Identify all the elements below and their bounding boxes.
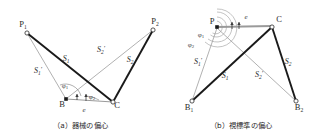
label-eccentricity-e: e (82, 106, 85, 114)
figure-container: P1 P2 B C S1 S1′ S2′ S2 φ1 φ2 e P C B1 B… (0, 0, 321, 138)
label-point-b1: B1 (185, 102, 194, 113)
line-c-p2-heavy (113, 30, 153, 102)
vertex-p-station (215, 25, 219, 29)
vertex-p1 (25, 31, 29, 35)
label-point-p1: P1 (19, 19, 27, 30)
line-p2-b (66, 30, 153, 99)
line-p-c-eccentric (217, 26, 272, 27)
label-distance-s1-prime-b: S1′ (194, 56, 203, 66)
label-angle-phi1-b: φ1 (198, 31, 205, 39)
label-angle-phi2-b: φ2 (188, 41, 195, 49)
label-distance-s1-b: S1 (222, 71, 229, 81)
vertex-c-b (270, 25, 274, 29)
panel-b-labels: P C B1 B2 S1′ S1 S2′ S2 φ1 φ2 e (185, 13, 304, 113)
label-point-p: P (210, 16, 215, 26)
figure-svg: P1 P2 B C S1 S1′ S2′ S2 φ1 φ2 e P C B1 B… (0, 0, 321, 138)
caption-panel-b: （b）視標準の偏心 (161, 120, 321, 130)
vertex-p2 (151, 28, 155, 32)
label-distance-s2-prime: S2′ (97, 44, 106, 54)
vertex-b1 (190, 99, 194, 103)
label-distance-s1-prime: S1′ (34, 65, 43, 75)
panel-a-labels: P1 P2 B C S1 S1′ S2′ S2 φ1 φ2 e (19, 16, 159, 114)
label-distance-s2: S2 (127, 55, 134, 65)
label-distance-s1: S1 (63, 54, 70, 64)
panel-b-drawing (190, 9, 298, 103)
label-point-b: B (59, 99, 65, 109)
label-point-b2: B2 (295, 102, 304, 113)
label-distance-s2-prime-b: S2′ (255, 69, 264, 79)
label-point-p2: P2 (151, 16, 159, 27)
tick-arrow-2 (84, 94, 87, 97)
label-point-c: C (114, 100, 120, 110)
label-point-c-b: C (276, 14, 282, 24)
tick-arrow-1 (75, 94, 78, 97)
tick-arrow-b2 (237, 22, 240, 25)
label-eccentricity-e-b: e (244, 13, 247, 21)
line-p1-b (27, 33, 66, 99)
tick-arrow-b1 (230, 22, 233, 25)
label-angle-phi2: φ2 (89, 93, 96, 101)
label-distance-s2-b: S2 (285, 57, 292, 67)
caption-panel-a: （a）器械の偏心 (0, 120, 161, 130)
label-angle-phi1: φ1 (62, 82, 69, 90)
